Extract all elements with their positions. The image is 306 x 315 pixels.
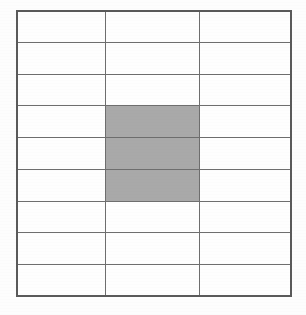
grid-cell-r4-c3[interactable] (200, 106, 292, 138)
grid-row (17, 11, 292, 43)
grid-cell-r7-c1[interactable] (17, 201, 106, 233)
grid-row (17, 42, 292, 74)
grid-row (17, 74, 292, 106)
grid-row (17, 138, 292, 170)
grid-row (17, 106, 292, 138)
grid-cell-r9-c1[interactable] (17, 265, 106, 297)
grid-cell-shaded-r6-c2[interactable] (105, 169, 200, 201)
grid-cell-r9-c2[interactable] (105, 265, 200, 297)
grid-cell-r2-c3[interactable] (200, 42, 292, 74)
grid-cell-r1-c2[interactable] (105, 11, 200, 43)
grid-cell-r4-c1[interactable] (17, 106, 106, 138)
grid-table (16, 10, 292, 297)
grid-cell-r3-c3[interactable] (200, 74, 292, 106)
figure-canvas (0, 0, 306, 315)
grid-cell-r2-c2[interactable] (105, 42, 200, 74)
grid-cell-r8-c2[interactable] (105, 233, 200, 265)
grid-cell-r5-c1[interactable] (17, 138, 106, 170)
grid-cell-r6-c3[interactable] (200, 169, 292, 201)
grid-cell-r1-c3[interactable] (200, 11, 292, 43)
grid-cell-r3-c2[interactable] (105, 74, 200, 106)
grid-cell-r7-c3[interactable] (200, 201, 292, 233)
grid-cell-shaded-r5-c2[interactable] (105, 138, 200, 170)
grid-cell-r5-c3[interactable] (200, 138, 292, 170)
grid-cell-r1-c1[interactable] (17, 11, 106, 43)
grid-cell-r6-c1[interactable] (17, 169, 106, 201)
grid-row (17, 201, 292, 233)
grid-cell-r7-c2[interactable] (105, 201, 200, 233)
grid-diagram (16, 10, 292, 297)
grid-row (17, 169, 292, 201)
grid-row (17, 265, 292, 297)
grid-body (17, 11, 292, 297)
grid-row (17, 233, 292, 265)
grid-cell-r8-c1[interactable] (17, 233, 106, 265)
grid-cell-r9-c3[interactable] (200, 265, 292, 297)
grid-cell-r8-c3[interactable] (200, 233, 292, 265)
grid-cell-r3-c1[interactable] (17, 74, 106, 106)
grid-cell-shaded-r4-c2[interactable] (105, 106, 200, 138)
grid-cell-r2-c1[interactable] (17, 42, 106, 74)
